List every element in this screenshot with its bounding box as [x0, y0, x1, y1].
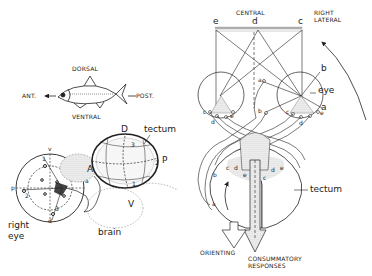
- label-ventral: VENTRAL: [72, 114, 101, 120]
- label-eye: eye: [318, 86, 334, 95]
- label-eye-2: 2: [25, 193, 29, 199]
- label-ray-b: b: [321, 64, 327, 73]
- label-tectum-V: V: [128, 200, 134, 209]
- fish-icon: [58, 76, 127, 108]
- label-eye-a: a: [85, 178, 89, 184]
- label-right-retina-d: d: [299, 120, 303, 126]
- label-right-eye-1: right: [8, 221, 29, 230]
- label-orienting: ORIENTING: [200, 250, 235, 256]
- label-anterior: ANT.: [22, 93, 36, 99]
- label-tectum-2: 2: [155, 160, 159, 166]
- label-eye-v: v: [48, 146, 52, 152]
- label-tectum-e-left: e: [243, 172, 247, 178]
- label-tectum-c-right: c: [263, 175, 266, 181]
- label-tectum-d-left: d: [234, 165, 238, 171]
- tectum-diagram: [92, 134, 158, 188]
- visual-field-lines: [215, 28, 322, 112]
- label-tectum-3: 3: [131, 142, 135, 148]
- label-tectum: tectum: [144, 125, 176, 134]
- label-dorsal: DORSAL: [72, 66, 98, 72]
- label-right-eye-2: eye: [8, 232, 24, 241]
- label-brain: brain: [98, 228, 121, 237]
- label-right-retina-b: b: [258, 108, 262, 114]
- label-tectum-c-left: c: [226, 165, 229, 171]
- label-eye-1: 1: [42, 156, 46, 162]
- label-right-retina-c: c: [286, 109, 289, 115]
- label-field-d: d: [252, 17, 258, 26]
- label-field-c: c: [298, 17, 303, 26]
- label-field-e: e: [213, 17, 219, 26]
- right-lateral-arrow: [322, 42, 366, 120]
- label-eye-3: 3: [55, 206, 59, 212]
- label-eye-d: d: [48, 218, 52, 224]
- label-tectum-right: tectum: [310, 185, 342, 194]
- label-tectum-P: P: [162, 156, 167, 165]
- label-left-retina-d: d: [211, 119, 215, 125]
- label-tectum-a-left: a: [212, 201, 216, 207]
- label-tectum-D: D: [121, 125, 128, 134]
- label-posterior: POST.: [136, 93, 154, 99]
- diagram-canvas: [0, 0, 372, 276]
- label-right-lateral-2: LATERAL: [314, 17, 341, 23]
- label-tectum-d-right: d: [271, 167, 275, 173]
- label-tectum-A: A: [87, 165, 93, 174]
- label-tectum-b: b: [213, 172, 217, 178]
- label-central: CENTRAL: [236, 10, 265, 16]
- label-tectum-1: 1: [132, 181, 136, 187]
- label-tectum-e-right: e: [280, 165, 284, 171]
- label-consummatory-2: RESPONSES: [248, 263, 286, 269]
- label-left-retina-e: e: [230, 113, 234, 119]
- label-right-retina-e: e: [320, 110, 324, 116]
- label-left-retina-c: c: [203, 109, 206, 115]
- tectum-right-panel: [210, 133, 308, 253]
- label-right-retina-a: a: [258, 77, 262, 83]
- label-eye-p: p: [11, 185, 15, 191]
